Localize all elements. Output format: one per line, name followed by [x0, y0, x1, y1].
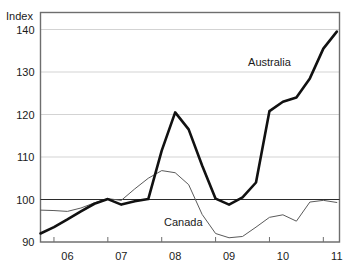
- chart-container: 90100110120130140 060708091011 Index Aus…: [0, 0, 351, 272]
- x-axis-tick-label: 09: [223, 250, 235, 262]
- line-chart: 90100110120130140 060708091011 Index Aus…: [0, 0, 351, 272]
- y-axis-tick-label: 140: [16, 24, 34, 36]
- x-axis-tick-label: 11: [331, 250, 342, 262]
- x-axis-tick-label: 07: [115, 250, 127, 262]
- x-axis-tick-label: 10: [277, 250, 289, 262]
- y-axis-tick-label: 100: [16, 194, 34, 206]
- y-axis-tick-label: 120: [16, 109, 34, 121]
- x-axis-tick-label: 08: [169, 250, 181, 262]
- y-axis-title: Index: [6, 10, 33, 22]
- y-axis-tick-label: 110: [17, 151, 35, 163]
- y-axis-tick-label: 130: [16, 66, 34, 78]
- y-axis-tick-label: 90: [22, 236, 34, 248]
- x-axis-tick-label: 06: [61, 250, 73, 262]
- chart-background: [0, 0, 351, 272]
- series-label-australia: Australia: [248, 56, 292, 68]
- series-label-canada: Canada: [164, 216, 203, 228]
